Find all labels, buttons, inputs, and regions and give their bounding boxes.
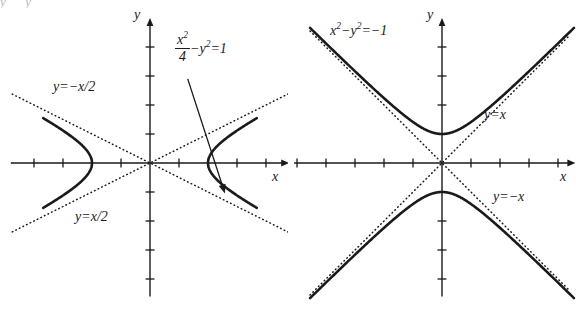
plot-panel-left: x y y=−x/2 y=x/2 x2 4 −y2=1 bbox=[0, 0, 288, 310]
y-axis-label-left: y bbox=[134, 8, 140, 22]
equation-label-left: x2 4 −y2=1 bbox=[175, 34, 227, 65]
annotation-arrow bbox=[188, 79, 226, 194]
equation-denominator: 4 bbox=[175, 49, 190, 64]
axes bbox=[11, 18, 288, 296]
asymptote-label-upper-right: y=x bbox=[484, 108, 506, 122]
equation-tail: =1 bbox=[210, 41, 226, 56]
y-axis-label-right: y bbox=[427, 8, 433, 22]
equation-label-right: x2−y2=−1 bbox=[330, 24, 387, 38]
asymptote-label-upper-left: y=−x/2 bbox=[53, 80, 95, 94]
equation-numerator: x2 bbox=[175, 33, 190, 49]
asymptote-label-lower-left: y=x/2 bbox=[75, 210, 108, 224]
plot-left-canvas bbox=[0, 0, 288, 310]
equation-rest: −y bbox=[190, 41, 206, 56]
asymptote-label-lower-right: y=−x bbox=[493, 190, 524, 204]
equation-mid: −y bbox=[341, 23, 357, 38]
x-axis-label-right: x bbox=[560, 170, 566, 184]
plot-panel-right: x y x2−y2=−1 y=x y=−x bbox=[288, 0, 576, 310]
equation-fraction: x2 4 bbox=[175, 33, 190, 64]
hyperbola-figure: y y x y y=−x/2 y=x/2 x2 4 −y2=1 x y x2−y… bbox=[0, 0, 576, 310]
x-axis-label-left: x bbox=[272, 170, 278, 184]
equation-tail: =−1 bbox=[361, 23, 387, 38]
plot-right-canvas bbox=[288, 0, 576, 310]
